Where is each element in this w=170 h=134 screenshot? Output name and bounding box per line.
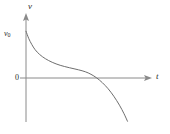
v-axis [23, 13, 29, 122]
initial-velocity-label: v0 [4, 30, 11, 38]
origin-label: 0 [15, 74, 19, 82]
t-axis [20, 75, 152, 81]
velocity-curve [26, 31, 127, 121]
x-axis-label: t [156, 72, 159, 81]
velocity-time-graph: v t v0 0 [0, 0, 170, 134]
plot-canvas [0, 0, 170, 134]
y-axis-label: v [28, 2, 32, 11]
initial-velocity-subscript: 0 [8, 32, 11, 38]
